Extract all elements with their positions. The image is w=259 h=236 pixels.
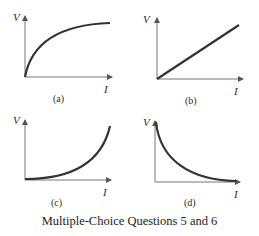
graph-d (155, 121, 240, 182)
graph-label-c: (c) (51, 197, 62, 208)
graph-b (157, 18, 243, 79)
curve-c (25, 126, 110, 179)
graphs-canvas (0, 0, 259, 236)
x-axis-label-d: I (234, 188, 238, 200)
curve-a (25, 23, 110, 77)
graph-a (25, 16, 112, 77)
x-axis-label-b: I (234, 85, 238, 97)
curve-d (156, 122, 236, 181)
y-axis-label-a: V (13, 11, 20, 23)
curve-b (157, 25, 239, 79)
graph-label-b: (b) (185, 95, 197, 106)
graph-label-a: (a) (53, 93, 64, 104)
graph-c (25, 120, 111, 180)
figure-caption: Multiple-Choice Questions 5 and 6 (0, 214, 259, 229)
x-axis-label-c: I (103, 186, 107, 198)
y-axis-label-d: V (143, 116, 150, 128)
graph-label-d: (d) (184, 197, 196, 208)
y-axis-label-c: V (13, 114, 20, 126)
x-axis-label-a: I (104, 83, 108, 95)
y-axis-label-b: V (143, 13, 150, 25)
